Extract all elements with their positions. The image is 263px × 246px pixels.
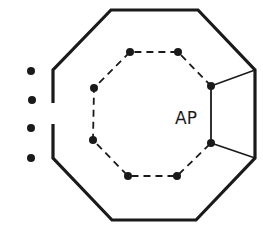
diagram: AP — [0, 0, 263, 246]
vertex-dot — [126, 48, 134, 56]
vertex-dot — [124, 172, 132, 180]
ap-connector-bottom — [211, 143, 255, 158]
left-dot — [28, 96, 36, 104]
vertex-dot — [207, 139, 215, 147]
ap-connector-top — [211, 70, 255, 86]
vertex-dot — [174, 48, 182, 56]
left-dot — [27, 124, 35, 132]
left-dot — [27, 154, 35, 162]
vertex-dot — [90, 84, 98, 92]
left-dot — [27, 67, 35, 75]
ap-label: AP — [175, 108, 197, 128]
outer-octagon — [53, 10, 255, 220]
left-dots — [27, 67, 36, 162]
vertex-dot — [89, 136, 97, 144]
vertex-dot — [207, 82, 215, 90]
vertex-dot — [173, 172, 181, 180]
